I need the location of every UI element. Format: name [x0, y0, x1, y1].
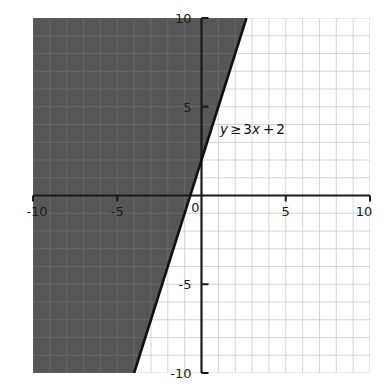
chart-figure: -10-50510-10-5510 y≥3x+2 [0, 0, 389, 390]
x-tick-label-10: 10 [356, 204, 373, 219]
inequality-graph: -10-50510-10-5510 y≥3x+2 [0, 0, 389, 390]
x-tick-label-5: 5 [282, 204, 290, 219]
x-tick-label--10: -10 [26, 204, 47, 219]
y-tick-label--5: -5 [179, 277, 192, 292]
x-tick-label--5: -5 [111, 204, 124, 219]
x-tick-label-0: 0 [191, 200, 199, 215]
y-tick-label-5: 5 [183, 100, 191, 115]
y-tick-label--10: -10 [170, 366, 191, 381]
y-tick-label-10: 10 [175, 11, 192, 26]
